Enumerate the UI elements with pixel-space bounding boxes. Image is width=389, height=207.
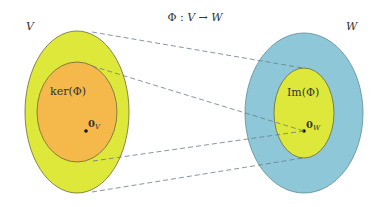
kernel-ellipse [37, 62, 117, 162]
zero-v-point [84, 129, 88, 133]
map-title: Φ : V → W [167, 11, 224, 24]
linear-map-diagram: Φ : V → W V ker(Φ) 0V W Im(Φ) 0W [0, 0, 389, 207]
codomain-label: W [346, 20, 359, 33]
domain-label: V [26, 20, 35, 33]
kernel-label: ker(Φ) [50, 85, 86, 98]
domain-space-V: V ker(Φ) 0V [25, 20, 129, 193]
image-label: Im(Φ) [287, 86, 319, 99]
image-ellipse [274, 68, 334, 158]
codomain-space-W: W Im(Φ) 0W [245, 20, 363, 193]
